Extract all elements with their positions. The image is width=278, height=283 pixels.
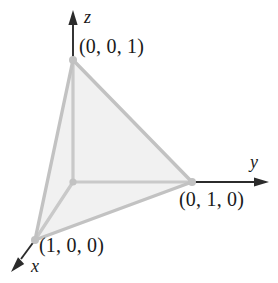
- vertex-label-001: (0, 0, 1): [79, 35, 144, 58]
- shaded-triangle-face: [35, 60, 192, 240]
- axis-label-y: y: [250, 152, 258, 173]
- coordinate-tetrahedron-figure: (0, 0, 1) (0, 1, 0) (1, 0, 0) z y x: [0, 0, 278, 283]
- axis-label-x: x: [31, 256, 39, 277]
- axis-arrowhead-y: [254, 177, 269, 186]
- vertex-dot-010: [188, 178, 196, 186]
- axis-arrowhead-z: [68, 10, 77, 25]
- vertex-label-100: (1, 0, 0): [39, 234, 104, 257]
- vertex-dot-001: [69, 56, 77, 64]
- axis-arrowhead-x: [11, 257, 24, 272]
- axis-label-z: z: [84, 7, 91, 28]
- vertex-dot-100: [31, 236, 39, 244]
- vertex-dot-origin: [69, 178, 76, 185]
- vertex-label-010: (0, 1, 0): [179, 188, 244, 211]
